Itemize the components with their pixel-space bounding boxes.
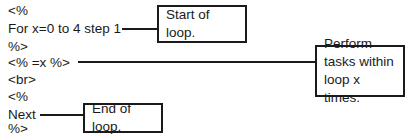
code-line-open-1: <% <box>8 3 28 19</box>
code-line-open-2: <% <box>8 89 28 105</box>
connector-start <box>122 28 158 30</box>
callout-perform-tasks: Perform tasks within loop x times. <box>315 45 405 97</box>
code-line-output-x: <% =x %> <box>8 55 70 71</box>
code-line-close-2: %> <box>8 121 28 137</box>
callout-end-text: End of loop. <box>92 100 154 136</box>
code-line-close-1: %> <box>8 39 28 55</box>
callout-start-text: Start of loop. <box>166 6 238 42</box>
code-line-for: For x=0 to 4 step 1 <box>8 21 121 37</box>
connector-perform <box>78 61 316 63</box>
code-line-br: <br> <box>8 72 36 88</box>
callout-start-of-loop: Start of loop. <box>157 5 247 43</box>
connector-end <box>40 114 84 116</box>
callout-perform-text: Perform tasks within loop x times. <box>324 35 396 107</box>
callout-end-of-loop: End of loop. <box>83 103 163 133</box>
